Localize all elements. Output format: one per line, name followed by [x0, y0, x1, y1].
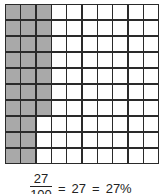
empty-cell	[129, 133, 143, 147]
hundred-grid	[5, 4, 159, 164]
shaded-cell	[37, 101, 51, 115]
empty-cell	[37, 133, 51, 147]
shaded-cell	[6, 21, 20, 35]
empty-cell	[129, 69, 143, 83]
empty-cell	[37, 149, 51, 163]
empty-cell	[113, 149, 127, 163]
empty-cell	[83, 21, 97, 35]
empty-cell	[113, 117, 127, 131]
shaded-cell	[6, 117, 20, 131]
empty-cell	[129, 101, 143, 115]
empty-cell	[98, 53, 112, 67]
shaded-cell	[6, 101, 20, 115]
empty-cell	[83, 133, 97, 147]
empty-cell	[113, 133, 127, 147]
empty-cell	[67, 21, 81, 35]
empty-cell	[83, 149, 97, 163]
empty-cell	[144, 149, 158, 163]
empty-cell	[67, 5, 81, 19]
empty-cell	[113, 37, 127, 51]
shaded-cell	[37, 5, 51, 19]
shaded-cell	[6, 133, 20, 147]
shaded-cell	[6, 53, 20, 67]
empty-cell	[67, 149, 81, 163]
empty-cell	[52, 133, 66, 147]
empty-cell	[113, 101, 127, 115]
fraction-numerator: 27	[32, 172, 50, 185]
empty-cell	[98, 37, 112, 51]
percent-value: 27%	[106, 181, 132, 194]
shaded-cell	[21, 37, 35, 51]
shaded-cell	[21, 117, 35, 131]
empty-cell	[67, 37, 81, 51]
empty-cell	[129, 53, 143, 67]
empty-cell	[67, 117, 81, 131]
empty-cell	[113, 5, 127, 19]
shaded-cell	[21, 5, 35, 19]
shaded-cell	[6, 85, 20, 99]
empty-cell	[67, 101, 81, 115]
shaded-cell	[21, 149, 35, 163]
empty-cell	[98, 85, 112, 99]
empty-cell	[98, 21, 112, 35]
empty-cell	[144, 101, 158, 115]
empty-cell	[83, 53, 97, 67]
empty-cell	[52, 85, 66, 99]
equals-sign: =	[92, 181, 100, 194]
empty-cell	[52, 149, 66, 163]
empty-cell	[113, 21, 127, 35]
middle-value: 27	[72, 181, 86, 194]
fraction: 27 100	[30, 172, 52, 194]
empty-cell	[67, 53, 81, 67]
shaded-cell	[6, 37, 20, 51]
shaded-cell	[6, 5, 20, 19]
shaded-cell	[21, 101, 35, 115]
shaded-cell	[37, 53, 51, 67]
empty-cell	[144, 53, 158, 67]
empty-cell	[52, 37, 66, 51]
shaded-cell	[37, 21, 51, 35]
empty-cell	[144, 69, 158, 83]
shaded-cell	[37, 69, 51, 83]
empty-cell	[83, 117, 97, 131]
empty-cell	[129, 85, 143, 99]
empty-cell	[37, 117, 51, 131]
empty-cell	[83, 37, 97, 51]
empty-cell	[83, 85, 97, 99]
empty-cell	[52, 101, 66, 115]
shaded-cell	[21, 53, 35, 67]
empty-cell	[113, 53, 127, 67]
empty-cell	[113, 69, 127, 83]
empty-cell	[129, 149, 143, 163]
fraction-denominator: 100	[30, 188, 52, 194]
empty-cell	[52, 21, 66, 35]
empty-cell	[67, 133, 81, 147]
empty-cell	[129, 5, 143, 19]
empty-cell	[52, 117, 66, 131]
empty-cell	[83, 5, 97, 19]
shaded-cell	[21, 69, 35, 83]
shaded-cell	[37, 85, 51, 99]
empty-cell	[98, 5, 112, 19]
shaded-cell	[37, 37, 51, 51]
percent-equation: 27 100 = 27 = 27%	[30, 172, 132, 194]
empty-cell	[144, 133, 158, 147]
empty-cell	[129, 117, 143, 131]
empty-cell	[98, 149, 112, 163]
empty-cell	[129, 37, 143, 51]
empty-cell	[144, 37, 158, 51]
empty-cell	[144, 5, 158, 19]
empty-cell	[83, 69, 97, 83]
empty-cell	[67, 85, 81, 99]
shaded-cell	[21, 21, 35, 35]
shaded-cell	[6, 69, 20, 83]
empty-cell	[67, 69, 81, 83]
empty-cell	[144, 21, 158, 35]
empty-cell	[113, 85, 127, 99]
empty-cell	[52, 53, 66, 67]
shaded-cell	[21, 85, 35, 99]
shaded-cell	[21, 133, 35, 147]
empty-cell	[129, 21, 143, 35]
empty-cell	[52, 69, 66, 83]
empty-cell	[144, 117, 158, 131]
